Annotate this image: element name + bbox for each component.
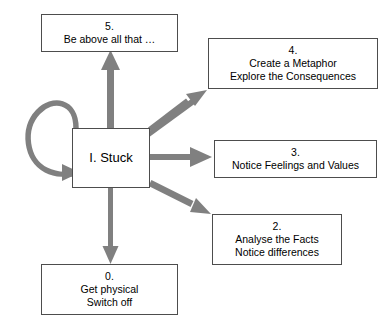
- edge-stuck-to-5-icon: [101, 50, 120, 128]
- node-5[interactable]: 5. Be above all that …: [41, 14, 178, 52]
- node-2-line-2: Notice differences: [235, 246, 319, 259]
- node-4[interactable]: 4. Create a Metaphor Explore the Consequ…: [208, 38, 378, 89]
- node-5-number: 5.: [105, 20, 114, 33]
- node-0-line-2: Switch off: [87, 296, 132, 309]
- node-5-line-1: Be above all that …: [64, 33, 156, 46]
- node-0[interactable]: 0. Get physical Switch off: [41, 264, 178, 315]
- node-2-number: 2.: [273, 220, 282, 233]
- diagram-canvas: arrow up to node 5 --> arrow down to nod…: [0, 0, 391, 327]
- node-2[interactable]: 2. Analyse the Facts Notice differences: [212, 214, 342, 265]
- node-stuck-label: I. Stuck: [89, 150, 132, 166]
- node-3[interactable]: 3. Notice Feelings and Values: [214, 140, 377, 178]
- node-3-number: 3.: [291, 146, 300, 159]
- node-4-line-1: Create a Metaphor: [249, 57, 337, 70]
- edge-stuck-to-3-icon: [150, 147, 212, 167]
- node-stuck[interactable]: I. Stuck: [72, 128, 150, 188]
- node-0-line-1: Get physical: [81, 283, 139, 296]
- node-2-line-1: Analyse the Facts: [235, 233, 318, 246]
- node-0-number: 0.: [105, 270, 114, 283]
- node-3-line-1: Notice Feelings and Values: [232, 159, 359, 172]
- node-4-number: 4.: [289, 44, 298, 57]
- edge-stuck-to-0-icon: [103, 188, 119, 264]
- node-4-line-2: Explore the Consequences: [230, 70, 356, 83]
- edge-stuck-to-4-icon: [150, 90, 207, 137]
- edge-stuck-to-2-icon: [150, 183, 211, 214]
